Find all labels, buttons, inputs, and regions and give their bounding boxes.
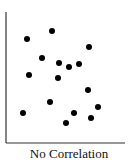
data-point <box>49 28 55 34</box>
data-point <box>86 44 92 50</box>
scatter-plot <box>0 0 138 145</box>
data-point <box>88 115 94 121</box>
data-point <box>76 61 82 67</box>
data-point <box>24 36 30 42</box>
data-point <box>95 104 101 110</box>
data-point <box>85 87 91 93</box>
data-point <box>20 110 26 116</box>
data-point <box>56 60 62 66</box>
data-point <box>47 99 53 105</box>
data-point <box>63 120 69 126</box>
data-point <box>66 64 72 70</box>
data-point <box>71 110 77 116</box>
chart-caption: No Correlation <box>0 146 138 162</box>
data-point <box>26 72 32 78</box>
data-point <box>39 55 45 61</box>
data-points <box>20 28 101 126</box>
data-point <box>55 75 61 81</box>
